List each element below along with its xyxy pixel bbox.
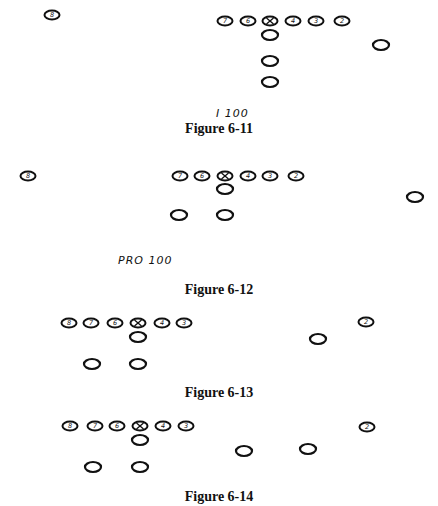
player-center-icon [133, 422, 148, 431]
svg-text:3: 3 [184, 422, 188, 430]
figure-caption-6-14: Figure 6-14 [0, 489, 438, 505]
svg-text:2: 2 [365, 423, 369, 431]
svg-text:4: 4 [161, 422, 165, 430]
formation-label-pro-100: PRO 100 [118, 254, 172, 267]
player-halfback-left-icon [84, 359, 100, 369]
svg-text:6: 6 [113, 319, 117, 327]
player-center-icon [131, 319, 146, 328]
player-4-icon: 4 [156, 422, 171, 431]
figure-figure-6-14: 876432 [63, 422, 375, 473]
player-halfback-right-icon [132, 462, 148, 472]
svg-text:8: 8 [68, 422, 72, 430]
player-qb-icon [130, 332, 146, 342]
player-3-icon: 3 [177, 319, 192, 328]
player-4-icon: 4 [286, 17, 301, 26]
svg-text:4: 4 [160, 319, 164, 327]
player-4-icon: 4 [241, 172, 256, 181]
svg-text:3: 3 [314, 17, 318, 25]
figure-figure-6-13: 876432 [62, 318, 374, 370]
player-halfback-right-icon [130, 359, 146, 369]
player-qb-icon [217, 184, 233, 194]
player-7-icon: 7 [218, 17, 233, 26]
player-qb-icon [132, 435, 148, 445]
svg-text:8: 8 [50, 11, 54, 19]
svg-text:6: 6 [115, 422, 119, 430]
player-wing-icon [310, 334, 326, 344]
player-qb-icon [262, 30, 278, 40]
player-fullback-icon [262, 56, 278, 66]
player-6-icon: 6 [195, 172, 210, 181]
player-center-icon [263, 17, 278, 26]
player-3-icon: 3 [179, 422, 194, 431]
svg-text:3: 3 [268, 172, 272, 180]
svg-text:6: 6 [200, 172, 204, 180]
player-halfback-left-icon [85, 462, 101, 472]
player-6-icon: 6 [110, 422, 125, 431]
player-3-icon: 3 [263, 172, 278, 181]
player-flanker-icon [407, 192, 423, 202]
svg-text:6: 6 [246, 17, 250, 25]
player-3-icon: 3 [309, 17, 324, 26]
player-8-icon: 8 [45, 11, 60, 20]
svg-text:8: 8 [26, 172, 30, 180]
player-8-icon: 8 [63, 422, 78, 431]
svg-text:8: 8 [67, 319, 71, 327]
figure-caption-6-11: Figure 6-11 [0, 121, 438, 137]
player-halfback-right-icon [217, 210, 233, 220]
player-8-icon: 8 [21, 172, 36, 181]
svg-text:3: 3 [182, 319, 186, 327]
player-6-icon: 6 [108, 319, 123, 328]
player-4-icon: 4 [155, 319, 170, 328]
player-2-icon: 2 [360, 423, 375, 432]
player-slot-icon [236, 446, 252, 456]
player-center-icon [218, 172, 233, 181]
player-2-icon: 2 [359, 318, 374, 327]
player-8-icon: 8 [62, 319, 77, 328]
formation-label-i-100: I 100 [216, 107, 249, 120]
player-6-icon: 6 [241, 17, 256, 26]
svg-text:4: 4 [246, 172, 250, 180]
player-2-icon: 2 [289, 172, 304, 181]
player-wing-icon [300, 444, 316, 454]
player-7-icon: 7 [88, 422, 103, 431]
svg-text:2: 2 [294, 172, 298, 180]
figure-figure-6-11: 876432 [45, 11, 390, 88]
svg-text:2: 2 [340, 17, 344, 25]
player-halfback-left-icon [171, 210, 187, 220]
player-7-icon: 7 [84, 319, 99, 328]
player-7-icon: 7 [173, 172, 188, 181]
svg-text:4: 4 [291, 17, 295, 25]
figure-caption-6-12: Figure 6-12 [0, 282, 438, 298]
formation-diagrams: 876432876432876432876432 [0, 0, 438, 506]
figure-caption-6-13: Figure 6-13 [0, 385, 438, 401]
player-2-icon: 2 [335, 17, 350, 26]
playbook-page: 876432876432876432876432 I 100 PRO 100 F… [0, 0, 438, 506]
player-flanker-icon [373, 40, 389, 50]
svg-text:2: 2 [364, 318, 368, 326]
player-tailback-icon [262, 77, 278, 87]
figure-figure-6-12: 876432 [21, 172, 424, 221]
